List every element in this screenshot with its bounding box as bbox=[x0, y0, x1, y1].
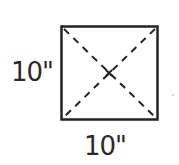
stray-dot bbox=[172, 94, 174, 96]
width-label: 10" bbox=[84, 133, 126, 159]
center-x-mark bbox=[106, 70, 112, 76]
height-label: 10" bbox=[11, 59, 53, 85]
